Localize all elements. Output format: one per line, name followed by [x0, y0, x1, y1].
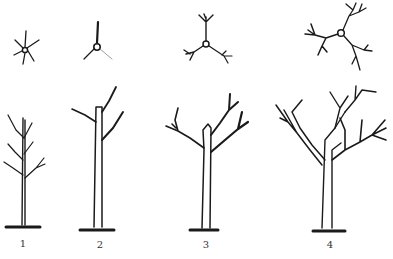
- tree-training-diagram: 1 2 3 4: [0, 0, 393, 259]
- stage-label-3: 3: [203, 239, 209, 250]
- stage-2-plan-view: [84, 22, 112, 59]
- stage-1-side-view: [4, 115, 45, 227]
- stage-4-plan-view: [305, 3, 372, 70]
- stage-4-side-view: [276, 86, 386, 231]
- stage-label-2: 2: [97, 239, 103, 250]
- stage-3-plan-view: [184, 14, 232, 63]
- stage-1-plan-view: [14, 31, 39, 64]
- stage-3-side-view: [166, 94, 248, 230]
- stage-2-side-view: [72, 87, 123, 230]
- stage-label-4: 4: [327, 239, 333, 250]
- stage-label-1: 1: [20, 238, 26, 249]
